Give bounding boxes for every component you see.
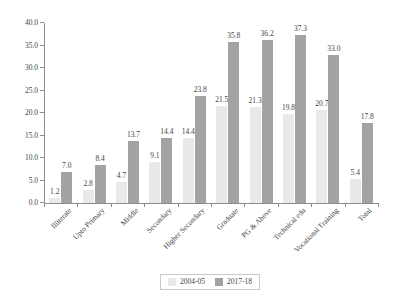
x-axis-category-label: PG & Above	[240, 206, 274, 240]
bar: 13.7	[128, 141, 139, 203]
bar: 33.0	[328, 55, 339, 204]
bar-value-label: 9.1	[150, 151, 159, 161]
y-tick-label: 20.0	[25, 107, 38, 118]
bar-value-label: 36.2	[261, 29, 274, 39]
bar: 8.4	[95, 165, 106, 203]
bar-value-label: 4.7	[117, 171, 126, 181]
legend-swatch	[168, 278, 176, 286]
bar-value-label: 33.0	[327, 44, 340, 54]
bar: 2.8	[83, 190, 94, 203]
bar: 5.4	[350, 179, 361, 203]
bar-group: 4.713.7	[111, 23, 144, 203]
bar-value-label: 35.8	[227, 31, 240, 41]
bar: 21.5	[216, 106, 227, 203]
bar: 7.0	[61, 172, 72, 204]
y-tick-label: 5.0	[29, 175, 38, 186]
bar-group: 14.423.8	[178, 23, 211, 203]
bar: 17.8	[362, 123, 373, 203]
bar: 19.8	[283, 114, 294, 203]
bar: 9.1	[149, 162, 160, 203]
bar: 14.4	[161, 138, 172, 203]
x-axis-category-label: Upto Primary	[71, 206, 106, 241]
bar-value-label: 20.7	[315, 99, 328, 109]
bar-value-label: 14.4	[160, 127, 173, 137]
y-tick-label: 40.0	[25, 17, 38, 28]
y-axis-line	[44, 23, 45, 204]
bar-group: 21.535.8	[211, 23, 244, 203]
x-axis-tick	[378, 203, 379, 207]
bar: 23.8	[195, 96, 206, 203]
x-axis-line	[44, 203, 378, 204]
y-tick-label: 10.0	[25, 152, 38, 163]
bar-value-label: 7.0	[62, 161, 71, 171]
bar: 37.3	[295, 35, 306, 203]
legend-label: 2017-18	[227, 277, 252, 287]
bar-group: 20.733.0	[311, 23, 344, 203]
bar-value-label: 21.3	[249, 96, 262, 106]
bar-value-label: 13.7	[127, 130, 140, 140]
x-axis-category-label: Graduate	[214, 206, 240, 232]
bar: 36.2	[262, 40, 273, 203]
bar-value-label: 23.8	[194, 85, 207, 95]
bar-group: 5.417.8	[345, 23, 378, 203]
plot-area: 0.05.010.015.020.025.030.035.040.0 1.27.…	[44, 23, 378, 203]
bar-value-label: 8.4	[95, 154, 104, 164]
bar-group: 19.837.3	[278, 23, 311, 203]
legend-entry[interactable]: 2017-18	[215, 277, 252, 287]
bar-value-label: 19.8	[282, 103, 295, 113]
bar: 4.7	[116, 182, 127, 203]
bar: 20.7	[316, 110, 327, 203]
x-axis-category-label: Middle	[118, 206, 140, 228]
bar-chart-figure: 0.05.010.015.020.025.030.035.040.0 1.27.…	[0, 0, 396, 302]
y-tick-label: 0.0	[29, 197, 38, 208]
legend-entry[interactable]: 2004-05	[168, 277, 205, 287]
bar-group: 9.114.4	[144, 23, 177, 203]
bar-group: 2.88.4	[77, 23, 110, 203]
bar-value-label: 1.2	[50, 187, 59, 197]
bar-value-label: 2.8	[83, 179, 92, 189]
chart-legend: 2004-052017-18	[160, 274, 260, 290]
x-axis-category-label: Illiterate	[49, 206, 73, 230]
x-axis-category-label: Total	[356, 206, 373, 223]
bar-value-label: 37.3	[294, 24, 307, 34]
y-tick-label: 30.0	[25, 62, 38, 73]
bar: 14.4	[183, 138, 194, 203]
x-axis-category-label: Secondary	[145, 206, 174, 235]
y-tick-label: 35.0	[25, 40, 38, 51]
bar: 21.3	[250, 107, 261, 203]
bar-value-label: 17.8	[361, 112, 374, 122]
y-tick-label: 25.0	[25, 85, 38, 96]
bar-value-label: 21.5	[215, 95, 228, 105]
bar-value-label: 14.4	[182, 127, 195, 137]
y-tick-label: 15.0	[25, 130, 38, 141]
x-axis-category-label: Technical edu	[271, 206, 307, 242]
bar-value-label: 5.4	[351, 168, 360, 178]
bar-group: 1.27.0	[44, 23, 77, 203]
legend-swatch	[215, 278, 223, 286]
bar-group: 21.336.2	[244, 23, 277, 203]
legend-label: 2004-05	[180, 277, 205, 287]
bar: 35.8	[228, 42, 239, 203]
